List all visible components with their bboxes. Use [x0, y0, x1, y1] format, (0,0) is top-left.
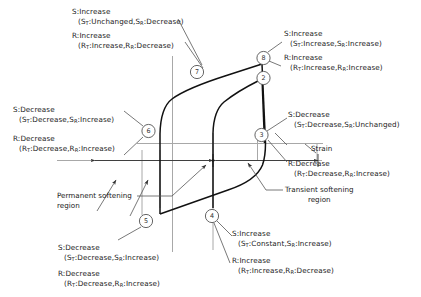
annotation-6-s-line2: (ST:Decrease,SR:Increase)	[13, 115, 115, 126]
txt: (R	[19, 144, 27, 153]
leader-4-b	[214, 223, 230, 263]
txt: (S	[64, 253, 72, 262]
svg-text:8: 8	[261, 54, 265, 62]
annotation-5-s-line1: S:Decrease	[58, 243, 160, 253]
marker-7: 7	[190, 65, 203, 78]
arrow-left-2	[130, 180, 148, 216]
strain-axis-label: Strain	[311, 144, 332, 154]
txt: :Increase)	[123, 253, 160, 262]
subscript-r: R	[291, 242, 295, 248]
annotation-6: S:Decrease (ST:Decrease,SR:Increase) R:D…	[13, 105, 115, 154]
txt: :Increase)	[78, 115, 115, 124]
txt: :Decrease,S	[305, 120, 349, 129]
subscript-t: T	[298, 42, 301, 48]
txt: :Decrease,S	[75, 253, 119, 262]
subscript-r: R	[342, 66, 346, 72]
annotation-8-r-line1: R:Increase	[284, 53, 383, 63]
leader-permanent-arrow	[172, 165, 206, 196]
annotation-8-s-line1: S:Increase	[284, 29, 383, 39]
vertical-guides	[142, 56, 317, 252]
subscript-t: T	[246, 269, 249, 275]
annotation-6-r-line2: (RT:Decrease,RR:Increase)	[13, 144, 115, 155]
leader-8-b	[269, 61, 281, 66]
annotation-7-s-line2: (ST:Unchanged,SR:Decrease)	[72, 17, 184, 28]
annotation-5: S:Decrease (ST:Decrease,SR:Increase) R:D…	[58, 243, 160, 289]
annotation-5-r-line2: (RT:Decrease,RR:Increase)	[58, 279, 160, 290]
permanent-softening-label: Permanent softening region	[57, 191, 132, 210]
leader-4-a	[217, 221, 232, 236]
svg-text:2: 2	[261, 74, 265, 82]
subscript-t: T	[246, 242, 249, 248]
txt: :Decrease,R	[30, 144, 75, 153]
subscript-r: R	[120, 282, 124, 288]
subscript-t: T	[27, 147, 30, 153]
annotation-7-s-line1: S:Increase	[72, 7, 184, 17]
leader-8-a	[268, 42, 282, 52]
txt: :Increase)	[353, 169, 390, 178]
annotation-4: S:Increase (ST:Constant,SR:Increase) R:I…	[232, 229, 334, 276]
txt: :Increase)	[295, 239, 332, 248]
marker-4: 4	[205, 209, 218, 222]
leader-6-a	[124, 111, 143, 126]
annotation-3-r-line1: R:Decrease	[288, 159, 390, 169]
marker-2: 2	[257, 71, 270, 84]
subscript-t: T	[86, 20, 89, 26]
txt: :Increase)	[346, 63, 383, 72]
annotation-3-r-line2: (RT:Decrease,RR:Increase)	[288, 169, 390, 180]
txt: (S	[78, 17, 86, 26]
transient-softening-label: Transient softening region	[285, 185, 354, 204]
txt: :Increase)	[345, 39, 382, 48]
txt: :Unchanged,S	[89, 17, 140, 26]
svg-text:3: 3	[259, 131, 263, 139]
txt: :Constant,S	[249, 239, 292, 248]
annotation-3-r: R:Decrease (RT:Decrease,RR:Increase)	[288, 159, 390, 179]
subscript-r: R	[140, 20, 144, 26]
annotation-7: S:Increase (ST:Unchanged,SR:Decrease) R:…	[72, 7, 184, 51]
txt: :Decrease,S	[30, 115, 74, 124]
subscript-t: T	[298, 66, 301, 72]
subscript-r: R	[342, 42, 346, 48]
txt: (R	[238, 266, 246, 275]
annotation-5-s-line2: (ST:Decrease,SR:Increase)	[58, 253, 160, 264]
txt: (R	[78, 41, 86, 50]
leader-6-b	[124, 137, 143, 155]
inner-upper-branch	[213, 78, 262, 150]
txt: :Decrease)	[144, 17, 184, 26]
leader-5	[118, 227, 141, 240]
txt: (S	[19, 115, 27, 124]
subscript-t: T	[72, 282, 75, 288]
txt: :Increase,R	[89, 41, 130, 50]
subscript-r: R	[350, 172, 354, 178]
subscript-r: R	[349, 123, 353, 129]
subscript-r: R	[290, 269, 294, 275]
svg-text:5: 5	[144, 217, 148, 225]
svg-text:6: 6	[146, 127, 150, 135]
txt: :Increase,R	[249, 266, 290, 275]
permanent-softening-line1: Permanent softening	[57, 191, 132, 201]
txt: (R	[290, 63, 298, 72]
annotation-4-r-line2: (RT:Increase,RR:Decrease)	[232, 266, 334, 277]
annotation-7-r-line2: (RT:Increase,RR:Decrease)	[72, 41, 184, 52]
subscript-t: T	[72, 256, 75, 262]
annotation-8-s-line2: (ST:Increase,SR:Increase)	[284, 39, 383, 50]
annotation-4-s-line2: (ST:Constant,SR:Increase)	[232, 239, 334, 250]
marker-6: 6	[142, 124, 155, 137]
txt: :Increase)	[78, 144, 115, 153]
txt: (R	[64, 279, 72, 288]
leader-transient-arrow	[248, 163, 266, 190]
txt: :Decrease,R	[75, 279, 120, 288]
transient-softening-line1: Transient softening	[285, 185, 354, 195]
txt: (R	[294, 169, 302, 178]
annotation-3-s-line1: S:Decrease	[288, 110, 400, 120]
annotation-4-s-line1: S:Increase	[232, 229, 334, 239]
marker-3: 3	[255, 128, 268, 141]
txt: :Decrease,R	[305, 169, 350, 178]
svg-text:7: 7	[195, 68, 199, 76]
svg-text:4: 4	[210, 212, 214, 220]
annotation-8-r-line2: (RT:Increase,RR:Increase)	[284, 63, 383, 74]
subscript-r: R	[130, 44, 134, 50]
txt: (S	[238, 239, 246, 248]
figure-canvas: 7 8 2 3 6 5 4	[0, 0, 421, 297]
txt: :Increase)	[123, 279, 160, 288]
txt: :Increase,S	[301, 39, 342, 48]
